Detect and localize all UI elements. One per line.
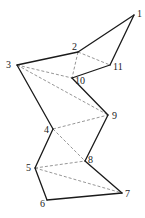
dashed-diagonals: [17, 52, 122, 193]
edge-5-6: [35, 168, 47, 200]
vertex-label-2: 2: [72, 41, 77, 52]
diagonal-5-7: [35, 168, 122, 193]
vertex-label-8: 8: [88, 154, 93, 165]
vertex-label-1: 1: [137, 8, 142, 19]
polygon-diagram: 1234567891011: [0, 0, 145, 218]
vertex-label-9: 9: [112, 110, 117, 121]
vertex-label-3: 3: [6, 59, 11, 70]
edge-2-3: [17, 52, 78, 65]
vertex-label-11: 11: [113, 61, 123, 72]
vertex-label-7: 7: [125, 188, 130, 199]
edge-7-8: [85, 161, 122, 193]
diagonal-4-9: [53, 115, 108, 129]
diagonal-2-11: [78, 52, 110, 65]
vertex-label-5: 5: [26, 162, 31, 173]
diagonal-5-8: [35, 161, 85, 168]
diagonal-3-10: [17, 65, 72, 78]
vertex-label-6: 6: [40, 198, 45, 209]
edge-6-7: [47, 193, 122, 200]
diagonal-4-8: [53, 129, 85, 161]
vertex-label-10: 10: [75, 75, 85, 86]
vertex-label-4: 4: [44, 124, 49, 135]
